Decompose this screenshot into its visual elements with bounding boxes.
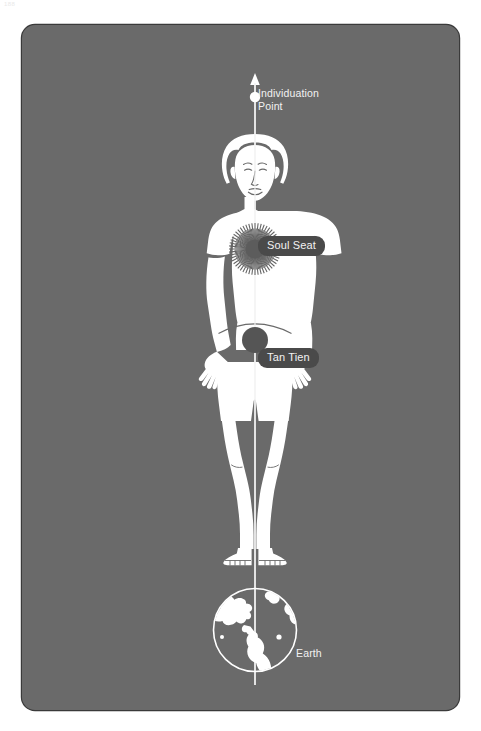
- label-tan-tien: Tan Tien: [258, 348, 319, 368]
- label-earth: Earth: [296, 647, 322, 660]
- leg-left: [222, 419, 254, 549]
- foot-right: [258, 548, 286, 565]
- label-individuation-point: Individuation Point: [258, 87, 319, 112]
- figure-panel: Individuation Point Soul Seat Tan Tien E…: [22, 25, 459, 710]
- label-soul-seat: Soul Seat: [258, 236, 325, 256]
- foot-left: [223, 548, 251, 565]
- diagram-illustration: [22, 25, 459, 710]
- arm-left: [206, 256, 230, 351]
- ear-right: [275, 167, 280, 179]
- ear-left: [230, 167, 235, 179]
- page-number: 188: [4, 1, 15, 7]
- leg-right: [256, 419, 288, 549]
